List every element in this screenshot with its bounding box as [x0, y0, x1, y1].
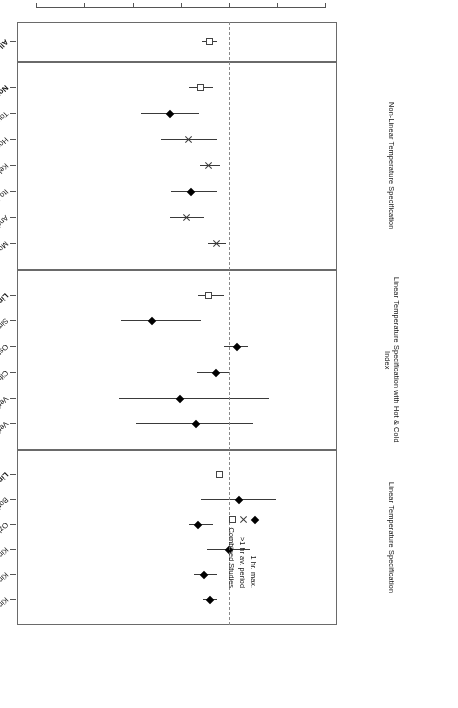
x-tick-label: 1.4	[31, 0, 44, 1]
study-tick	[10, 243, 16, 244]
study-tick	[10, 398, 16, 399]
x-tick-label: 1.0	[223, 0, 236, 1]
study-tick	[10, 474, 16, 475]
study-label: Verhoeff et al., 1996	[0, 420, 10, 474]
study-tick	[10, 346, 16, 347]
x-tick	[36, 3, 37, 8]
study-tick	[10, 372, 16, 373]
study-tick	[10, 524, 16, 525]
x-tick	[133, 3, 134, 8]
x-tick	[181, 3, 182, 8]
study-tick	[10, 113, 16, 114]
x-tick-label: 1.3	[79, 0, 92, 1]
legend-label-combined-studies: Combined Studies	[227, 528, 236, 588]
study-tick	[10, 549, 16, 550]
point-estimate-cross-icon	[212, 240, 221, 249]
study-tick	[10, 191, 16, 192]
legend-label-1hr-max: 1 hr. max.	[249, 556, 258, 588]
study-label: Kelsall et al., 1997	[0, 161, 10, 211]
point-estimate-cross-icon	[204, 162, 213, 171]
x-tick	[277, 3, 278, 8]
study-tick	[10, 423, 16, 424]
study-tick	[10, 217, 16, 218]
study-tick	[10, 165, 16, 166]
point-estimate-cross-icon	[182, 214, 191, 223]
rotated-plot-canvas: Linear Temperature SpecificationLinear T…	[0, 0, 458, 708]
study-tick	[10, 499, 16, 500]
point-estimate-square-icon	[197, 85, 204, 92]
study-tick	[10, 599, 16, 600]
x-tick-label: 1.1	[175, 0, 188, 1]
study-tick	[10, 295, 16, 296]
study-tick	[10, 139, 16, 140]
panel-label-non-linear-temperature: Non-Linear Temperature Specification	[344, 62, 440, 270]
legend-symbol-open-square-icon	[230, 517, 237, 524]
x-tick	[325, 3, 326, 8]
point-estimate-cross-icon	[184, 136, 193, 145]
legend-label-gt1hr-avg: >1 hr av. period	[238, 537, 247, 588]
x-tick	[229, 3, 230, 8]
point-estimate-square-icon	[216, 472, 223, 479]
panel-non-linear-temperature	[17, 62, 337, 270]
point-estimate-square-icon	[206, 39, 213, 46]
study-label: Kinney & Ozkaynak, 1991	[0, 595, 10, 663]
confidence-interval-line	[119, 398, 268, 399]
study-tick	[10, 574, 16, 575]
study-tick	[10, 87, 16, 88]
x-tick-label: 1.2	[127, 0, 140, 1]
panel-overall	[17, 22, 337, 62]
point-estimate-square-icon	[205, 292, 212, 299]
x-tick	[84, 3, 85, 8]
study-tick	[10, 41, 16, 42]
x-axis-line	[37, 7, 326, 8]
forest-plot-figure: Linear Temperature SpecificationLinear T…	[0, 0, 458, 708]
study-tick	[10, 320, 16, 321]
confidence-interval-line	[121, 320, 201, 321]
legend-symbol-cross-icon	[240, 516, 249, 525]
x-tick-label: 0.9	[272, 0, 285, 1]
x-tick-label: 0.8	[320, 0, 333, 1]
